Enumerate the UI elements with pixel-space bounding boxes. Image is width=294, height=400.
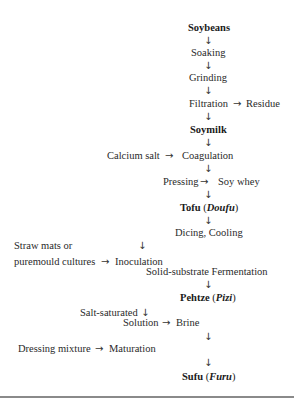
right-arrow-icon: → [233, 98, 241, 110]
right-arrow-icon: → [162, 317, 170, 329]
node-tofu: Tofu (Doufu) [180, 202, 238, 214]
down-arrow-icon: ↓ [204, 279, 212, 291]
down-arrow-icon: ↓ [204, 137, 212, 149]
close-paren: ) [232, 292, 236, 303]
right-arrow-icon: → [101, 256, 109, 268]
divider [0, 396, 294, 398]
node-sufu: Sufu (Furu) [182, 371, 235, 383]
node-soy-whey: Soy whey [218, 176, 260, 188]
right-arrow-icon: → [200, 176, 208, 188]
node-calcium-salt: Calcium salt [107, 150, 160, 162]
node-puremould-cultures: puremould cultures [14, 256, 95, 268]
down-arrow-icon: ↓ [204, 215, 212, 227]
tofu-label: Tofu [180, 202, 201, 213]
down-arrow-icon: ↓ [138, 240, 146, 252]
down-arrow-icon: ↓ [204, 331, 212, 343]
node-solution: Solution [123, 317, 159, 329]
sufu-alt-label: Furu [209, 371, 232, 382]
node-brine: Brine [176, 317, 199, 329]
sufu-label: Sufu [182, 371, 203, 382]
node-soybeans: Soybeans [188, 22, 230, 34]
down-arrow-icon: ↓ [204, 35, 212, 47]
node-soaking: Soaking [191, 47, 225, 59]
down-arrow-icon: ↓ [204, 111, 212, 123]
down-arrow-icon: ↓ [204, 357, 212, 369]
node-grinding: Grinding [189, 72, 227, 84]
node-soymilk: Soymilk [190, 124, 227, 136]
down-arrow-icon: ↓ [204, 85, 212, 97]
node-dicing-cooling: Dicing, Cooling [175, 227, 243, 239]
right-arrow-icon: → [95, 343, 103, 355]
down-arrow-icon: ↓ [204, 163, 212, 175]
down-arrow-icon: ↓ [204, 60, 212, 72]
node-pressing: Pressing [163, 176, 199, 188]
node-residue: Residue [246, 98, 280, 110]
pehtze-alt-label: Pizi [216, 292, 232, 303]
down-arrow-icon: ↓ [204, 189, 212, 201]
close-paren: ) [232, 371, 236, 382]
tofu-alt-label: Doufu [207, 202, 235, 213]
node-fermentation: Solid-substrate Fermentation [146, 266, 268, 278]
node-maturation: Maturation [109, 343, 156, 355]
right-arrow-icon: → [165, 150, 173, 162]
node-dressing-mixture: Dressing mixture [18, 343, 91, 355]
node-straw-mats: Straw mats or [14, 240, 72, 252]
close-paren: ) [235, 202, 239, 213]
node-coagulation: Coagulation [182, 150, 233, 162]
node-pehtze: Pehtze (Pizi) [180, 292, 236, 304]
node-filtration: Filtration [189, 98, 228, 110]
pehtze-label: Pehtze [180, 292, 210, 303]
